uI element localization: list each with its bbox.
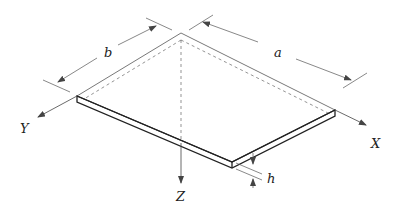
plate xyxy=(77,33,335,168)
label-a: a xyxy=(274,45,282,60)
label-h: h xyxy=(267,171,275,186)
plate-diagram: b a h Y X Z xyxy=(0,0,399,213)
hidden-edge-right xyxy=(181,40,328,113)
label-b: b xyxy=(104,45,112,60)
y-axis-arrow xyxy=(38,96,77,117)
label-z-axis: Z xyxy=(175,189,186,204)
label-x-axis: X xyxy=(370,136,381,151)
x-axis-arrow xyxy=(335,110,366,125)
hidden-edge-left xyxy=(84,40,181,99)
axes xyxy=(38,96,366,183)
label-y-axis: Y xyxy=(20,121,30,136)
